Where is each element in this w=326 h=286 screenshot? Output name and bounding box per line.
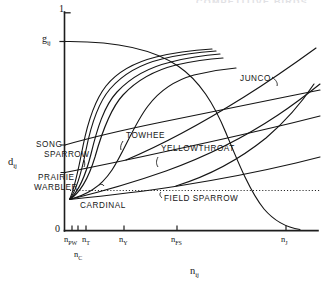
x-tick-label-n-c-subscript: C <box>78 255 82 261</box>
x-tick-label-n-c: nC <box>74 249 82 261</box>
leader-song-sparrow <box>84 160 85 167</box>
y-axis-title: dij <box>8 156 17 172</box>
leader-line-group <box>84 77 277 198</box>
curve-label-prairie-warbler-line1: PRAIRIE <box>38 173 75 183</box>
curve-junco <box>70 84 321 200</box>
x-axis-title-subscript: ij <box>195 271 199 279</box>
curve-label-song-sparrow-line1: SONG <box>36 140 62 150</box>
g-ij-subscript: ij <box>47 39 51 47</box>
cropped-header-text: COMPETITIVE BIRDS <box>196 0 308 3</box>
x-tick-label-n-fs: nFS <box>171 234 182 246</box>
curve-label-yellowthroat: YELLOWTHROAT <box>161 144 235 154</box>
y-axis-title-subscript: ij <box>13 162 17 170</box>
curve-cardinal-sigmoid <box>70 51 217 200</box>
leader-field-sparrow <box>160 192 162 198</box>
leader-yellowthroat <box>157 157 159 167</box>
x-axis-title: nij <box>190 265 199 281</box>
curve-label-towhee: TOWHEE <box>126 131 165 141</box>
x-tick-label-n-j: nJ <box>281 234 288 246</box>
x-tick-label-n-fs-subscript: FS <box>175 240 182 246</box>
curve-label-junco: JUNCO <box>240 74 271 84</box>
x-tick-label-n-y: nY <box>119 234 128 246</box>
figure-panel: COMPETITIVE BIRDS <box>0 0 326 286</box>
x-tick-label-n-t: nT <box>82 234 90 246</box>
leader-prairie <box>99 184 104 186</box>
x-tick-label-n-pw: nPW <box>64 234 77 246</box>
x-tick-label-n-j-subscript: J <box>285 240 287 246</box>
curve-label-song-sparrow-line2: SPARROW <box>44 150 90 160</box>
curve-label-prairie-warbler-line2: WARBLER <box>34 183 78 193</box>
curve-label-field-sparrow: FIELD SPARROW <box>164 194 238 204</box>
curve-label-cardinal: CARDINAL <box>80 201 126 211</box>
x-tick-label-n-pw-subscript: PW <box>68 240 77 246</box>
leader-towhee <box>121 141 123 150</box>
x-tick-label-n-y-subscript: Y <box>123 240 127 246</box>
curve-prairie-warbler-sigmoid <box>70 49 213 200</box>
y-axis-origin-label: 0 <box>55 223 60 234</box>
g-ij-label: gij <box>42 33 51 49</box>
x-tick-label-n-t-subscript: T <box>86 240 90 246</box>
y-axis-top-tick-label: 1 <box>59 3 64 14</box>
